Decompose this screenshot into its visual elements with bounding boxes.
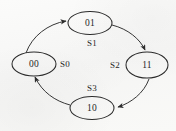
- transition-label-s2: S2: [107, 61, 123, 70]
- state-diagram-figure: 01 00 11 10 S0 S1 S2 S3: [0, 0, 176, 131]
- state-label-01: 01: [76, 19, 104, 29]
- transition-label-s0: S0: [57, 60, 73, 69]
- transition-label-s1: S1: [84, 39, 100, 48]
- transition-arc-s1: [112, 25, 145, 50]
- state-label-11: 11: [133, 61, 161, 71]
- state-label-00: 00: [20, 60, 48, 70]
- state-label-10: 10: [78, 104, 106, 114]
- transition-arc-s3: [35, 77, 70, 105]
- transition-arc-s2: [118, 79, 149, 107]
- transition-label-s3: S3: [84, 84, 100, 93]
- transition-arc-s0: [26, 21, 66, 53]
